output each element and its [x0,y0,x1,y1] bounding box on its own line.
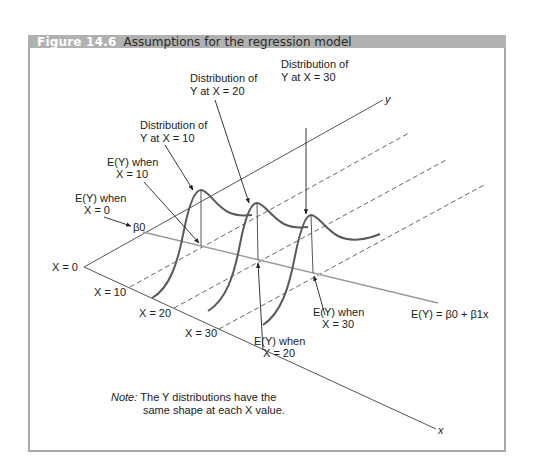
note-prefix: Note: [111,391,137,403]
y-axis [84,100,383,267]
ey-x20-label-line2: X = 20 [263,347,295,359]
regression-diagram: y x X = 0 X = 10 X = 20 X = 30 Distribut… [0,0,533,476]
regression-line [143,232,438,303]
note-line1: Note:The Y distributions have the [111,391,276,403]
ey-x10-label-line2: X = 10 [116,168,148,180]
arrow-ey-x0 [104,217,131,226]
x-tick-10: X = 10 [94,286,126,298]
origin-label: X = 0 [52,261,78,273]
ey-x0-label-line2: X = 0 [84,204,110,216]
dist-x30-label-line1: Distribution of [281,58,349,70]
x-tick-20: X = 20 [139,307,171,319]
x-axis-label: x [437,424,444,436]
arrow-dist-x10 [165,145,193,190]
dist-x10-label-line1: Distribution of [140,119,208,131]
mean-line-x30 [311,215,313,273]
note-line2: same shape at each X value. [143,404,285,416]
ey-x30-label-line1: E(Y) when [313,306,364,318]
ey-x0-label-line1: E(Y) when [75,192,126,204]
ey-x30-label-line2: X = 30 [322,318,354,330]
x-tick-30: X = 30 [185,327,217,339]
dist-x20-label-line1: Distribution of [190,72,258,84]
ey-x10-label-line1: E(Y) when [107,156,158,168]
note-text-1: The Y distributions have the [140,391,276,403]
dist-x30-label-line2: Y at X = 30 [281,71,336,83]
dist-x10-label-line2: Y at X = 10 [140,132,195,144]
mean-line-x20 [257,203,258,260]
beta0-label: β0 [133,221,145,233]
distribution-curve-x10 [152,190,252,298]
ey-x20-label-line1: E(Y) when [254,335,305,347]
dashed-guide-x20 [174,160,446,308]
arrow-dist-x20 [215,100,249,203]
dist-x20-label-line2: Y at X = 20 [190,85,245,97]
regression-equation: E(Y) = β0 + β1x [411,308,489,320]
y-axis-label: y [384,93,392,105]
